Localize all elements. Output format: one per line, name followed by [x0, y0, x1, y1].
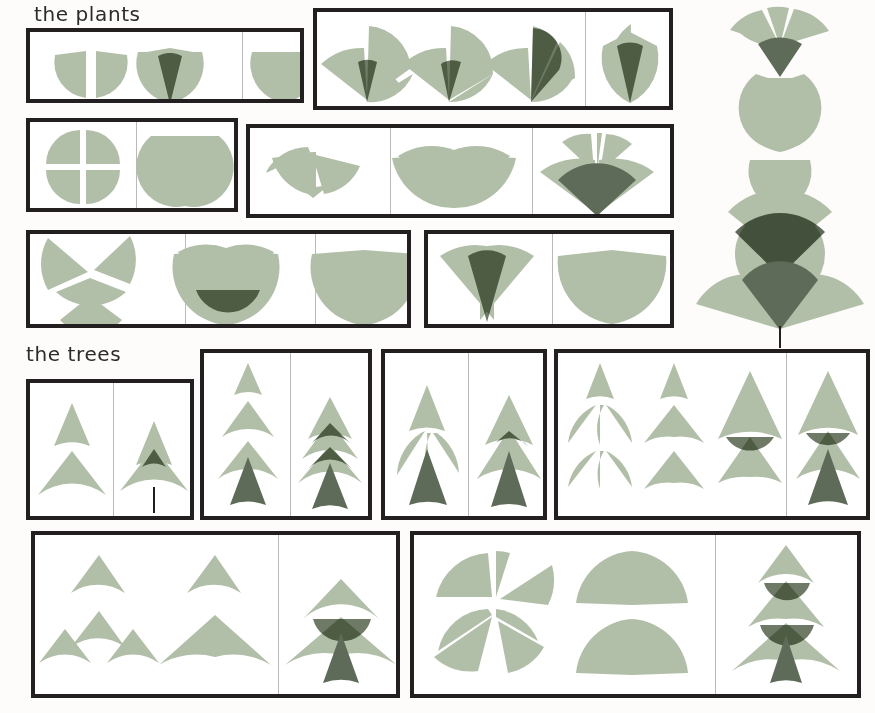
figure-cone-tree-with-trunk-line [30, 383, 194, 520]
figure-fan-with-dark-base [250, 128, 674, 218]
figure-two-petal-tulip-solid [30, 122, 238, 212]
heading-the-plants: the plants [34, 2, 141, 26]
trees-row1-panel-b [200, 349, 372, 520]
plants-row2-left-panel [26, 118, 238, 212]
hero-flower-stem [690, 4, 870, 344]
heading-the-trees: the trees [26, 342, 121, 366]
trees-row1-panel-c [381, 349, 547, 520]
plants-row3-right-panel [424, 230, 674, 328]
trees-row1-panel-a [26, 379, 194, 520]
plants-row1-left-panel [26, 28, 304, 103]
figure-three-tier-fir-dark-trunk [558, 353, 870, 520]
trees-row2-panel-b [410, 531, 861, 698]
trees-row2-panel-a [31, 531, 400, 698]
figure-cone-tree-overlap-trunk [385, 353, 547, 520]
poster-canvas: the plants the trees [0, 0, 875, 713]
plants-row1-right-panel [313, 8, 673, 110]
figure-plain-heart [30, 234, 411, 328]
figure-plain-cup [30, 32, 304, 103]
plants-row3-left-panel [26, 230, 411, 328]
trees-row1-panel-d [554, 349, 870, 520]
figure-three-tier-broad-fir [414, 535, 861, 698]
figure-tulip-closed-two-petal [317, 12, 673, 110]
figure-three-tier-tree-dark-trunk [204, 353, 372, 520]
figure-solid-chevron-heart [428, 234, 674, 328]
figure-broad-fir-dark-trunk [35, 535, 400, 698]
plants-row2-right-panel [246, 124, 674, 218]
